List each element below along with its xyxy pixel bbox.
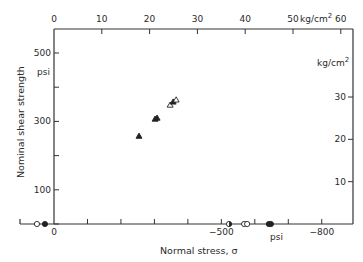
circle-marker	[42, 221, 47, 226]
y-unit-right: kg/cm2	[317, 56, 349, 68]
tick-label: 50	[287, 14, 299, 24]
tick-label: 30	[192, 14, 204, 24]
triangle-marker	[173, 97, 179, 102]
scatter-chart: 0−500−8001003005000102030405060102030 ps…	[0, 0, 363, 262]
axis-ticks	[54, 29, 353, 224]
tick-label: 0	[51, 14, 57, 24]
triangle-marker	[136, 133, 142, 138]
tick-label: 20	[144, 14, 156, 24]
tick-label: 30	[335, 92, 347, 102]
tick-label: 10	[96, 14, 108, 24]
circle-marker	[34, 221, 39, 226]
circle-marker	[268, 221, 273, 226]
tick-label: 40	[239, 14, 251, 24]
tick-label: −500	[209, 227, 234, 237]
data-points	[34, 97, 273, 227]
x-unit-top: kg/cm2	[300, 12, 332, 24]
x-axis-label: Normal stress, σ	[160, 245, 238, 256]
tick-label: 60	[335, 14, 347, 24]
y-unit-left: psi	[37, 67, 50, 77]
y-axis-label: Nominal shear strength	[15, 66, 26, 178]
tick-label: 20	[335, 134, 347, 144]
plot-frame	[20, 29, 353, 224]
x-unit-bottom: psi	[270, 232, 283, 242]
tick-label: −800	[309, 227, 334, 237]
circle-marker	[245, 221, 250, 226]
tick-labels: 0−500−8001003005000102030405060102030	[34, 14, 347, 237]
tick-label: 500	[34, 48, 51, 58]
tick-label: 10	[335, 177, 347, 187]
tick-label: 300	[34, 116, 51, 126]
tick-label: 100	[34, 185, 51, 195]
tick-label: 0	[51, 227, 57, 237]
